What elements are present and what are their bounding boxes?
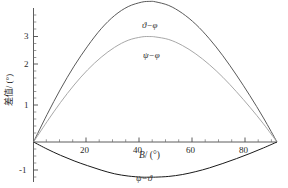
y-axis-title-text: 差值/ (°) xyxy=(2,74,15,106)
x-tick-label-80: 80 xyxy=(239,146,248,155)
curve-label-theta-minus-phi: ϑ−φ xyxy=(142,21,157,30)
curve-label-psi-minus-theta: ψ−ϑ xyxy=(136,174,152,183)
y-tick-label-1: 1 xyxy=(24,101,29,110)
x-tick-label-60: 60 xyxy=(186,146,195,155)
chart-container: 3 2 1 -1 20 40 60 80 差值/ (°) B/ (°) ϑ−φ … xyxy=(0,0,288,188)
y-axis-major-ticks xyxy=(34,37,39,171)
x-tick-label-20: 20 xyxy=(80,146,89,155)
x-axis-title: B/ (°) xyxy=(139,150,160,160)
y-axis-title: 差值/ (°) xyxy=(1,44,15,136)
curve-label-psi-minus-phi: ψ−φ xyxy=(143,51,160,60)
y-tick-label-2: 2 xyxy=(24,60,29,69)
x-axis-title-unit: / (°) xyxy=(145,150,160,160)
y-tick-label-minus-1: -1 xyxy=(19,166,27,175)
y-tick-label-3: 3 xyxy=(24,32,29,41)
